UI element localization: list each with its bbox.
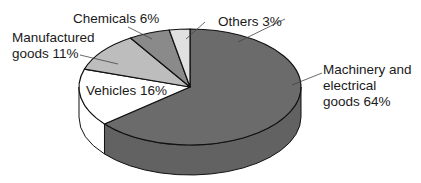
label-vehicles: Vehicles 16% bbox=[86, 83, 167, 99]
label-manufactured-line2: goods 11% bbox=[12, 46, 95, 62]
label-others: Others 3% bbox=[218, 14, 282, 30]
label-manufactured: Manufactured goods 11% bbox=[12, 30, 95, 62]
label-chemicals: Chemicals 6% bbox=[73, 11, 159, 27]
label-machinery-line2: electrical bbox=[323, 78, 412, 94]
label-machinery: Machinery and electrical goods 64% bbox=[323, 62, 412, 110]
label-machinery-line3: goods 64% bbox=[323, 94, 412, 110]
label-machinery-line1: Machinery and bbox=[323, 62, 412, 78]
label-manufactured-line1: Manufactured bbox=[12, 30, 95, 46]
